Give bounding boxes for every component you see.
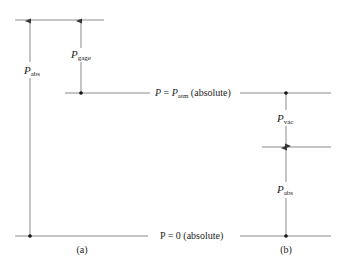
p-abs-label-b: Pabs: [276, 183, 293, 197]
pressure-diagram: Pabs Pgage (a) P = Patm (absolute) P = 0…: [0, 0, 347, 270]
caption-a: (a): [76, 244, 87, 256]
atmospheric-reference-label: P = Patm (absolute): [154, 87, 231, 100]
panel-a: Pabs Pgage (a): [15, 20, 150, 256]
p-abs-label-a: Pabs: [23, 64, 40, 78]
p-gage-origin-dot: [79, 91, 83, 95]
p-abs-origin-dot-b: [284, 234, 288, 238]
p-abs-origin-dot-a: [28, 234, 32, 238]
zero-reference-label: P = 0 (absolute): [160, 230, 223, 242]
p-vac-origin-dot: [284, 91, 288, 95]
p-gage-label: Pgage: [70, 48, 91, 62]
caption-b: (b): [280, 244, 292, 256]
p-vac-label: Pvac: [276, 112, 293, 126]
panel-b: Pvac Pabs (b): [240, 91, 331, 256]
